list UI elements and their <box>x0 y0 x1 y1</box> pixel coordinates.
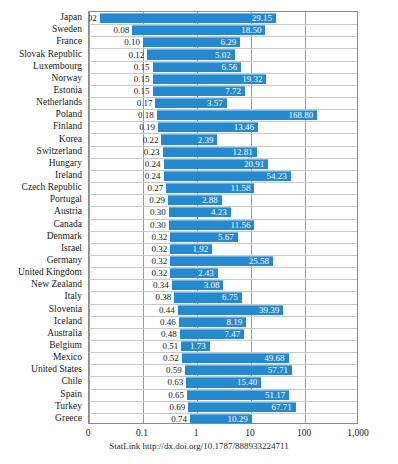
bar-high-value-label: 7.47 <box>224 329 240 338</box>
bar-row[interactable]: 0.292.88 <box>89 194 357 206</box>
bar-low-value-label: 0.74 <box>171 414 187 423</box>
bar-low-value-label: 0.48 <box>161 329 177 338</box>
category-label: France <box>56 36 82 46</box>
category-label: Denmark <box>47 231 82 241</box>
bar-row[interactable]: 0.0818.50 <box>89 24 357 36</box>
category-label: Slovenia <box>49 304 82 314</box>
bar-row[interactable]: 0.4439.39 <box>89 304 357 316</box>
category-label: Hungary <box>49 158 82 168</box>
bar-high-value-label: 4.23 <box>211 208 227 217</box>
bar-row[interactable]: 0.487.47 <box>89 328 357 340</box>
category-label: Norway <box>51 73 82 83</box>
bar-low-value-label: 0.44 <box>159 305 175 314</box>
bar-low-value-label: 0.18 <box>138 111 154 120</box>
bar-row[interactable]: 0.2312.81 <box>89 146 357 158</box>
bar-row[interactable]: 0.6315.40 <box>89 376 357 388</box>
bar-high-value-label: 3.08 <box>204 281 220 290</box>
category-label: Netherlands <box>36 97 82 107</box>
bar-low-value-label: 0.32 <box>152 269 168 278</box>
bar-chart: JapanSwedenFranceSlovak RepublicLuxembou… <box>0 0 398 464</box>
range-bar[interactable] <box>100 13 276 23</box>
x-tick-label: 0.1 <box>136 428 148 438</box>
bar-row[interactable]: 0.1913.46 <box>89 121 357 133</box>
bar-row[interactable]: 0.2711.58 <box>89 182 357 194</box>
category-label: Iceland <box>54 316 82 326</box>
bar-row[interactable]: 0.2420.91 <box>89 158 357 170</box>
bar-row[interactable]: 0.157.72 <box>89 85 357 97</box>
bar-row[interactable]: 0.2454.23 <box>89 170 357 182</box>
category-label: Sweden <box>52 24 82 34</box>
bar-row[interactable]: 0.125.02 <box>89 48 357 60</box>
category-label: Finland <box>53 121 82 131</box>
bar-row[interactable]: 0.1519.32 <box>89 73 357 85</box>
bar-low-value-label: 0.08 <box>113 26 129 35</box>
bar-row[interactable]: 0.322.43 <box>89 267 357 279</box>
category-label: New Zealand <box>31 279 82 289</box>
category-label: Germany <box>47 255 82 265</box>
bar-high-value-label: 11.58 <box>231 184 251 193</box>
bar-row[interactable]: 0.173.57 <box>89 97 357 109</box>
x-tick-label: 1 <box>194 428 199 438</box>
bar-low-value-label: 0.59 <box>166 366 182 375</box>
bar-low-value-label: 0.27 <box>148 184 164 193</box>
x-tick-label: 100 <box>297 428 311 438</box>
bar-low-value-label: 0.51 <box>162 342 178 351</box>
bar-row[interactable]: 0.304.23 <box>89 206 357 218</box>
category-label: Slovak Republic <box>19 49 82 59</box>
category-label: Chile <box>61 376 82 386</box>
bar-row[interactable]: 0.468.19 <box>89 316 357 328</box>
bar-row[interactable]: 0.5957.71 <box>89 364 357 376</box>
category-axis-labels: JapanSwedenFranceSlovak RepublicLuxembou… <box>0 11 85 424</box>
bar-high-value-label: 2.39 <box>198 135 214 144</box>
bar-low-value-label: 0.38 <box>156 293 172 302</box>
bar-row[interactable]: 0.18168.80 <box>89 109 357 121</box>
bar-low-value-label: 0.46 <box>160 317 176 326</box>
bar-low-value-label: 0.65 <box>168 390 184 399</box>
bar-row[interactable]: 0.511.73 <box>89 340 357 352</box>
bar-row[interactable]: 0.321.92 <box>89 243 357 255</box>
bar-low-value-label: 0.52 <box>163 354 179 363</box>
bar-high-value-label: 6.75 <box>222 293 238 302</box>
bar-row[interactable]: 0.106.29 <box>89 36 357 48</box>
bar-row[interactable]: 0.222.39 <box>89 133 357 145</box>
bar-low-value-label: 0.29 <box>149 196 165 205</box>
bar-low-value-label: 0.32 <box>152 244 168 253</box>
bar-high-value-label: 5.02 <box>215 50 231 59</box>
bar-row[interactable]: 0.6967.71 <box>89 401 357 413</box>
x-tick-label: 10 <box>245 428 255 438</box>
category-label: Turkey <box>55 401 82 411</box>
bar-low-value-label: 0.63 <box>167 378 183 387</box>
bar-row[interactable]: 0.3011.56 <box>89 219 357 231</box>
bar-high-value-label: 168.80 <box>289 111 314 120</box>
category-label: Spain <box>60 389 82 399</box>
x-axis: 00.11101001,000 <box>0 424 398 442</box>
bar-low-value-label: 0.30 <box>150 220 166 229</box>
category-label: United States <box>31 364 82 374</box>
bar-row[interactable]: 0.0229.15 <box>89 12 357 24</box>
category-label: Austria <box>54 206 82 216</box>
bar-low-value-label: 0.23 <box>144 147 160 156</box>
bar-high-value-label: 19.32 <box>242 74 262 83</box>
bar-row[interactable]: 0.5249.68 <box>89 352 357 364</box>
bar-low-value-label: 0.32 <box>152 257 168 266</box>
category-label: Belgium <box>49 340 82 350</box>
bar-row[interactable]: 0.386.75 <box>89 291 357 303</box>
bar-high-value-label: 2.88 <box>202 196 218 205</box>
bar-row[interactable]: 0.325.67 <box>89 231 357 243</box>
category-label: Korea <box>59 134 82 144</box>
bar-high-value-label: 5.67 <box>218 232 234 241</box>
bar-high-value-label: 18.50 <box>241 26 261 35</box>
bar-low-value-label: 0.02 <box>88 14 97 23</box>
bar-high-value-label: 2.43 <box>198 269 214 278</box>
bar-low-value-label: 0.12 <box>129 50 145 59</box>
bar-row[interactable]: 0.3225.58 <box>89 255 357 267</box>
bar-row[interactable]: 0.156.56 <box>89 61 357 73</box>
bar-row[interactable]: 0.343.08 <box>89 279 357 291</box>
bar-low-value-label: 0.15 <box>134 74 150 83</box>
category-label: Mexico <box>53 352 82 362</box>
bar-high-value-label: 49.68 <box>264 354 284 363</box>
bar-high-value-label: 10.29 <box>227 414 247 423</box>
bar-low-value-label: 0.22 <box>143 135 159 144</box>
bar-row[interactable]: 0.6551.17 <box>89 389 357 401</box>
bar-row[interactable]: 0.7410.29 <box>89 413 357 424</box>
